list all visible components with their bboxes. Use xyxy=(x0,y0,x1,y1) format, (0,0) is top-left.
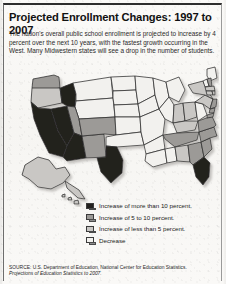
source-citation: SOURCE: U.S. Department of Education, Na… xyxy=(9,265,217,277)
state-nm xyxy=(82,134,106,158)
legend-row: Increase of 5 to 10 percent. xyxy=(86,212,220,224)
state-ak-tail xyxy=(65,181,85,199)
us-choropleth-map xyxy=(7,57,219,207)
state-wy xyxy=(75,98,115,119)
state-sd xyxy=(113,90,138,105)
state-hi-1 xyxy=(62,194,65,197)
summary-paragraph: The nation's overall public school enrol… xyxy=(9,30,216,56)
legend-swatch-mid xyxy=(86,214,94,220)
state-ky xyxy=(173,121,198,133)
state-ma xyxy=(205,86,215,91)
state-oh xyxy=(183,102,197,121)
legend-label: Increase of less than 5 percent. xyxy=(99,225,185,232)
legend-row: Increase of more than 10 percent. xyxy=(86,200,220,212)
legend-swatch-white xyxy=(86,237,94,243)
state-hi-2 xyxy=(68,197,72,200)
map-legend: Increase of more than 10 percent. Increa… xyxy=(86,200,220,246)
legend-row: Decrease xyxy=(86,235,220,247)
state-hi-3 xyxy=(74,200,79,204)
state-ne xyxy=(114,104,140,117)
legend-label: Increase of more than 10 percent. xyxy=(99,202,192,209)
infographic-root: Projected Enrollment Changes: 1997 to 20… xyxy=(0,0,226,284)
state-md xyxy=(207,113,214,118)
legend-label: Decrease xyxy=(99,237,125,244)
source-line-publication: Projections of Education Statistics to 2… xyxy=(9,271,217,277)
state-ak xyxy=(22,157,70,189)
state-de xyxy=(209,108,215,113)
legend-row: Increase of less than 5 percent. xyxy=(86,223,220,235)
legend-label: Increase of 5 to 10 percent. xyxy=(99,214,174,221)
state-mt xyxy=(73,77,113,101)
state-or xyxy=(31,88,62,108)
state-nd xyxy=(111,76,136,91)
legend-swatch-light xyxy=(86,226,94,232)
state-co xyxy=(79,117,116,136)
state-al xyxy=(175,145,190,162)
legend-swatch-dark xyxy=(86,203,94,209)
